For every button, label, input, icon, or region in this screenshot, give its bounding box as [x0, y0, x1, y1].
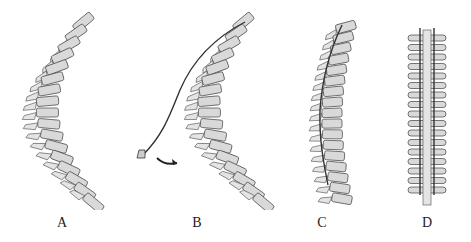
- rod-hook-icon: [137, 150, 145, 158]
- spine-posterior-view-illustration: [380, 0, 471, 210]
- panel-b: B: [125, 0, 275, 242]
- panel-label-d: D: [412, 215, 442, 231]
- panel-d: D: [380, 0, 471, 242]
- panel-c: C: [280, 0, 380, 242]
- spine-curved-illustration: [0, 0, 130, 210]
- spine-partially-corrected-illustration: [280, 0, 380, 210]
- panel-label-c: C: [307, 215, 337, 231]
- panel-label-b: B: [182, 215, 212, 231]
- panel-label-a: A: [47, 215, 77, 231]
- panel-a: A: [0, 0, 130, 242]
- spine-with-rod-illustration: [125, 0, 275, 210]
